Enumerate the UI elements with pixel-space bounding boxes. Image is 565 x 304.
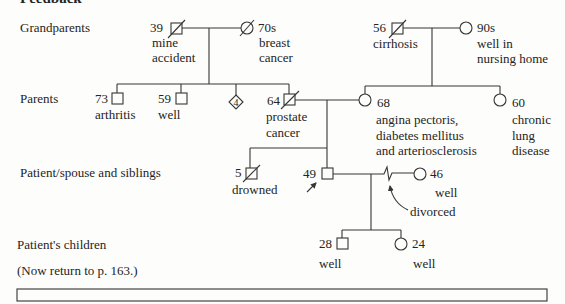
spouse-note: well (435, 185, 458, 200)
father-age: 64 (267, 93, 281, 108)
paternal-grandfather-note: mine (152, 35, 178, 50)
male-symbol-icon (112, 93, 123, 104)
sibling-count: 4 (234, 97, 239, 108)
son-age: 28 (319, 236, 332, 251)
uncle-note: arthritis (95, 107, 135, 122)
paternal-grandmother-age: 70s (258, 20, 276, 35)
maternal-grandfather-age: 56 (373, 20, 387, 35)
aunt-note: disease (512, 143, 550, 158)
brother-note: drowned (232, 182, 278, 197)
female-symbol-icon (460, 22, 472, 34)
row-label-grandparents: Grandparents (20, 20, 90, 35)
aunt-age: 60 (512, 95, 525, 110)
section-heading: Feedback (20, 0, 82, 6)
answer-mask-bar (17, 289, 547, 301)
female-symbol-icon (395, 238, 407, 250)
patient-age: 49 (303, 166, 316, 181)
daughter-age: 24 (412, 236, 426, 251)
male-symbol-icon (284, 94, 295, 105)
patient-male-symbol-icon (322, 168, 333, 179)
father-note: cancer (266, 125, 301, 140)
paternal-grandmother-note: breast (259, 35, 290, 50)
mother-note: and arteriosclerosis (376, 143, 477, 158)
male-symbol-icon (176, 93, 187, 104)
proband-arrow-icon (307, 183, 316, 192)
uncle-age: 59 (158, 91, 171, 106)
daughter-note: well (413, 256, 436, 271)
female-symbol-icon (494, 94, 506, 106)
divorced-label: divorced (410, 204, 456, 219)
aunt-note: chronic (512, 112, 551, 127)
mother-note: diabetes mellitus (376, 128, 464, 143)
paternal-grandfather-age: 39 (150, 20, 163, 35)
mother-age: 68 (377, 95, 390, 110)
spouse-age: 46 (430, 166, 444, 181)
paternal-grandmother-note: cancer (259, 50, 294, 65)
brother-age: 5 (235, 165, 242, 180)
row-label-children: Patient's children (17, 237, 107, 252)
paternal-grandfather-note: accident (152, 50, 196, 65)
uncle-age: 73 (95, 91, 108, 106)
divorced-marriage-line (333, 167, 414, 180)
row-label-parents: Parents (20, 91, 58, 106)
maternal-grandmother-note: nursing home (477, 51, 548, 66)
curved-arrow-icon (390, 186, 408, 210)
maternal-grandfather-note: cirrhosis (373, 36, 418, 51)
maternal-grandmother-age: 90s (477, 20, 495, 35)
pedigree-diagram: Feedback Grandparents Parents Patient/sp… (0, 0, 565, 304)
female-symbol-icon (414, 168, 426, 180)
return-instruction: (Now return to p. 163.) (17, 263, 138, 278)
uncle-note: well (158, 107, 181, 122)
aunt-note: lung (512, 128, 536, 143)
female-symbol-icon (359, 94, 371, 106)
male-symbol-icon (337, 238, 348, 249)
maternal-grandmother-note: well in (477, 36, 513, 51)
row-label-patient-generation: Patient/spouse and siblings (20, 165, 161, 180)
father-note: prostate (266, 109, 307, 124)
mother-note: angina pectoris, (376, 112, 458, 127)
son-note: well (319, 256, 342, 271)
paternal-grandparents-couple (168, 20, 254, 38)
